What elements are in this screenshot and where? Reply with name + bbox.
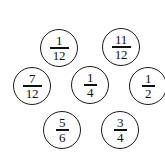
fraction-circles-figure: 112111271214125634 [0, 0, 165, 157]
fraction-circle-1-over-12: 112 [40, 29, 78, 67]
fraction: 1112 [112, 33, 131, 62]
fraction-circle-5-over-6: 56 [43, 111, 81, 149]
denominator: 12 [25, 87, 39, 100]
numerator: 7 [28, 72, 36, 85]
numerator: 1 [86, 71, 94, 84]
fraction-circle-7-over-12: 712 [13, 67, 51, 105]
numerator: 5 [58, 116, 66, 129]
denominator: 12 [114, 48, 128, 61]
denominator: 6 [58, 131, 66, 144]
fraction: 14 [84, 71, 97, 100]
fraction-circle-11-over-12: 1112 [102, 28, 140, 66]
denominator: 12 [52, 49, 66, 62]
fraction: 712 [23, 72, 42, 101]
denominator: 4 [116, 131, 124, 144]
fraction: 56 [56, 116, 69, 145]
denominator: 2 [144, 87, 152, 100]
fraction-circle-3-over-4: 34 [101, 111, 139, 149]
fraction: 34 [114, 116, 127, 145]
numerator: 1 [55, 34, 63, 47]
fraction-circle-1-over-2: 12 [129, 67, 165, 105]
fraction: 12 [142, 72, 155, 101]
fraction: 112 [50, 34, 69, 63]
fraction-circle-1-over-4: 14 [71, 66, 109, 104]
numerator: 1 [144, 72, 152, 85]
numerator: 11 [114, 33, 128, 46]
numerator: 3 [116, 116, 124, 129]
denominator: 4 [86, 86, 94, 99]
